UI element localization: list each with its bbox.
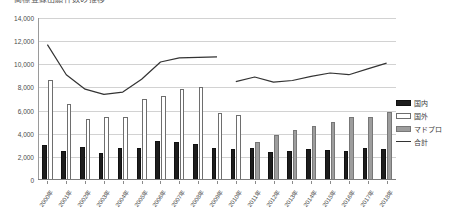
legend-item[interactable]: マドプロ [396, 122, 449, 135]
bar-madopro [255, 142, 260, 180]
bar-kokugai [123, 117, 128, 180]
y-axis-tick-label: 2,000 [18, 153, 34, 160]
x-axis-tick-label: 2002年 [75, 188, 93, 209]
x-axis-tick-label: 2015年 [320, 188, 338, 209]
bar-kokunai [306, 149, 311, 180]
bar-kokunai [250, 148, 255, 180]
legend-swatch-icon [396, 126, 411, 132]
legend-label: 合計 [414, 137, 428, 147]
legend-label: マドプロ [414, 124, 442, 134]
x-axis-tick [368, 181, 369, 184]
gridline [38, 87, 396, 88]
x-axis-tick [198, 181, 199, 184]
x-axis-labels: 2000年2001年2002年2003年2004年2005年2006年2007年… [38, 181, 396, 220]
bar-kokugai [199, 87, 204, 180]
y-axis-tick-label: 10,000 [14, 61, 34, 68]
bar-kokunai [268, 152, 273, 180]
bar-kokugai [104, 117, 109, 180]
x-axis-tick-label: 2000年 [37, 188, 55, 209]
legend-swatch-icon [396, 139, 411, 145]
x-axis-tick-label: 2008年 [188, 188, 206, 209]
bar-kokunai [344, 151, 349, 180]
x-axis-tick [160, 181, 161, 184]
bar-kokunai [118, 148, 123, 180]
y-axis-line [38, 18, 39, 180]
x-axis-tick [66, 181, 67, 184]
bar-kokugai [48, 80, 53, 180]
x-axis-tick-label: 2004年 [113, 188, 131, 209]
legend-swatch-icon [396, 100, 411, 106]
y-axis-tick-label: 8,000 [18, 84, 34, 91]
x-axis-tick [387, 181, 388, 184]
bar-madopro [274, 135, 279, 180]
x-axis-line [38, 179, 396, 180]
x-axis-tick [104, 181, 105, 184]
bar-kokunai [287, 151, 292, 180]
legend-item[interactable]: 合計 [396, 135, 449, 148]
bar-kokunai [381, 149, 386, 180]
bar-kokunai [212, 148, 217, 180]
gridline [38, 64, 396, 65]
bar-madopro [387, 112, 392, 180]
bar-kokunai [61, 151, 66, 181]
bar-kokunai [137, 148, 142, 180]
bar-madopro [331, 122, 336, 180]
bar-kokugai [218, 113, 223, 180]
bar-kokunai [99, 153, 104, 180]
x-axis-tick [85, 181, 86, 184]
x-axis-tick [349, 181, 350, 184]
x-axis-tick-label: 2001年 [56, 188, 74, 209]
x-axis-tick-label: 2011年 [244, 188, 262, 209]
legend-label: 国外 [414, 111, 428, 121]
bar-kokugai [86, 119, 91, 180]
x-axis-tick-label: 2016年 [339, 188, 357, 209]
x-axis-tick-label: 2012年 [263, 188, 281, 209]
x-axis-tick [330, 181, 331, 184]
x-axis-tick-label: 2009年 [207, 188, 225, 209]
gridline [38, 41, 396, 42]
y-axis-tick-label: 12,000 [14, 38, 34, 45]
legend-item[interactable]: 国内 [396, 96, 449, 109]
y-axis-tick-label: 14,000 [14, 15, 34, 22]
chart-screenshot: 商標登録出願件数の推移 02,0004,0006,0008,00010,0001… [0, 0, 449, 220]
x-axis-tick [217, 181, 218, 184]
y-axis-labels: 02,0004,0006,0008,00010,00012,00014,000 [0, 18, 36, 180]
gridline [38, 18, 396, 19]
x-axis-tick [274, 181, 275, 184]
chart-title: 商標登録出願件数の推移 [14, 0, 105, 4]
chart-legend: 国内国外マドプロ合計 [396, 96, 449, 148]
x-axis-tick-label: 2006年 [150, 188, 168, 209]
x-axis-tick [311, 181, 312, 184]
gridline [38, 111, 396, 112]
y-axis-tick-label: 0 [30, 177, 34, 184]
bar-madopro [312, 126, 317, 180]
x-axis-tick [179, 181, 180, 184]
bar-madopro [349, 117, 354, 180]
bar-madopro [293, 130, 298, 180]
bar-kokugai [142, 99, 147, 180]
y-axis-tick-label: 6,000 [18, 107, 34, 114]
x-axis-tick-label: 2003年 [94, 188, 112, 209]
x-axis-tick [292, 181, 293, 184]
bar-kokunai [363, 148, 368, 180]
bar-kokunai [231, 149, 236, 180]
bar-kokugai [236, 115, 241, 180]
x-axis-tick [47, 181, 48, 184]
x-axis-tick [236, 181, 237, 184]
bar-kokunai [42, 145, 47, 180]
x-axis-tick [142, 181, 143, 184]
x-axis-tick-label: 2010年 [226, 188, 244, 209]
x-axis-tick-label: 2014年 [301, 188, 319, 209]
bar-madopro [368, 117, 373, 180]
x-axis-tick-label: 2018年 [376, 188, 394, 209]
x-axis-tick [123, 181, 124, 184]
legend-item[interactable]: 国外 [396, 109, 449, 122]
x-axis-tick-label: 2017年 [357, 188, 375, 209]
x-axis-tick-label: 2013年 [282, 188, 300, 209]
bar-kokunai [80, 147, 85, 180]
legend-label: 国内 [414, 98, 428, 108]
x-axis-tick-label: 2007年 [169, 188, 187, 209]
x-axis-tick [255, 181, 256, 184]
bar-kokugai [67, 104, 72, 180]
bar-kokunai [325, 150, 330, 180]
